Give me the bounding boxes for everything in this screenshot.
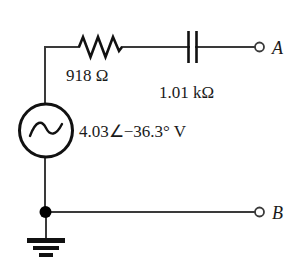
ac-voltage-source[interactable] [20,104,73,157]
terminal-a-label: A [271,38,284,58]
capacitor-value-label: 1.01 kΩ [159,83,214,102]
terminal-a-circle[interactable] [255,43,264,52]
terminal-b-label: B [272,203,283,223]
ac-source-circle [20,104,73,157]
resistor-value-label: 918 Ω [66,66,108,85]
junction-node [40,206,52,218]
source-value-label: 4.03∠−36.3° V [79,122,187,141]
circuit-diagram: A B 918 Ω 1.01 kΩ 4.03∠−36.3° V [0,0,305,277]
terminal-b-circle[interactable] [255,208,264,217]
